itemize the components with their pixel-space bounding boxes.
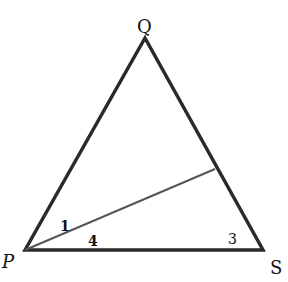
angle-label-3: 3 [228, 231, 237, 247]
angle-label-4: 4 [88, 233, 98, 249]
cevian-line [25, 169, 215, 250]
triangle-diagram: Q P S 1 4 3 [0, 0, 288, 282]
vertex-label-q: Q [137, 16, 152, 37]
vertex-label-s: S [270, 257, 282, 278]
vertex-label-p: P [1, 251, 15, 272]
angle-label-1: 1 [60, 218, 70, 234]
